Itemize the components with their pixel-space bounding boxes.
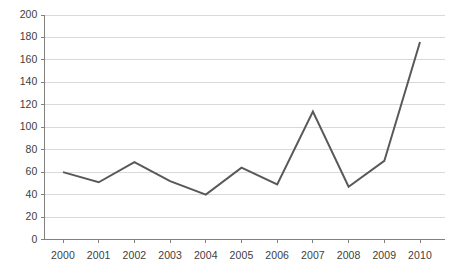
- y-axis-tick-label: 200: [20, 8, 38, 20]
- y-axis-tick-label: 100: [20, 120, 38, 132]
- y-axis-tick-label: 40: [26, 188, 38, 200]
- y-axis-tick-label: 0: [32, 233, 38, 245]
- y-axis-tick-label: 140: [20, 75, 38, 87]
- chart-background: [0, 0, 456, 277]
- y-axis-tick-label: 80: [26, 143, 38, 155]
- x-axis-tick-label: 2010: [396, 249, 444, 261]
- chart-plot-area: [0, 0, 456, 277]
- y-axis-tick-label: 160: [20, 53, 38, 65]
- y-axis-tick-label: 20: [26, 210, 38, 222]
- line-chart: 020406080100120140160180200 200020012002…: [0, 0, 456, 277]
- y-axis-tick-label: 60: [26, 165, 38, 177]
- y-axis-tick-label: 120: [20, 98, 38, 110]
- y-axis-tick-label: 180: [20, 30, 38, 42]
